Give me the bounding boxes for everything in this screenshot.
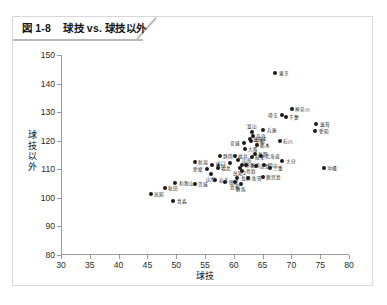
x-tick-mark xyxy=(176,255,177,259)
scatter-point[interactable] xyxy=(322,166,326,170)
scatter-point-label: 千葉 xyxy=(289,115,299,120)
scatter-point[interactable] xyxy=(243,147,247,151)
scatter-point[interactable] xyxy=(268,166,272,170)
scatter-point-label: 秋田 xyxy=(168,186,178,191)
x-tick-mark xyxy=(320,255,321,259)
scatter-point-label: 沖縄 xyxy=(327,165,337,170)
x-axis-label: 球技 xyxy=(61,269,349,282)
y-tick-label: 90 xyxy=(27,221,55,231)
y-tick-label: 120 xyxy=(27,136,55,146)
y-tick-label: 80 xyxy=(27,250,55,260)
scatter-point[interactable] xyxy=(205,167,209,171)
x-tick-mark xyxy=(205,255,206,259)
scatter-point-label: 愛媛 xyxy=(193,167,203,172)
scatter-point[interactable] xyxy=(193,160,197,164)
scatter-point-label: 福島 xyxy=(221,166,231,171)
scatter-point[interactable] xyxy=(284,115,288,119)
x-tick-mark xyxy=(147,255,148,259)
y-tick-mark xyxy=(57,55,61,56)
x-tick-mark xyxy=(234,255,235,259)
y-tick-label: 140 xyxy=(27,79,55,89)
scatter-point-label: 神奈川 xyxy=(295,106,310,111)
y-tick-label: 100 xyxy=(27,193,55,203)
y-tick-mark xyxy=(57,84,61,85)
y-tick-label: 130 xyxy=(27,107,55,117)
scatter-point-label: 新潟 xyxy=(198,160,208,165)
scatter-point-label: 北海道 xyxy=(265,154,280,159)
figure-number: 図 1-8 xyxy=(22,22,51,34)
y-tick-mark xyxy=(57,112,61,113)
scatter-point-label: 群馬 xyxy=(236,187,246,192)
scatter-point-label: 鹿児島 xyxy=(266,175,281,180)
scatter-point[interactable] xyxy=(250,130,254,134)
scatter-point-label: 大阪 xyxy=(248,146,258,151)
scatter-point[interactable] xyxy=(149,192,153,196)
scatter-point-label: 石川 xyxy=(283,139,293,144)
scatter-point-label: 佐賀 xyxy=(252,176,262,181)
scatter-point-label: 富山 xyxy=(247,124,257,129)
scatter-point-label: 和歌山 xyxy=(179,181,194,186)
scatter-point-label: 東京 xyxy=(279,70,289,75)
y-tick-mark xyxy=(57,226,61,227)
y-tick-mark xyxy=(57,198,61,199)
scatter-point[interactable] xyxy=(223,180,227,184)
scatter-point[interactable] xyxy=(163,186,167,190)
x-tick-mark xyxy=(90,255,91,259)
scatter-point-label: 鳥取 xyxy=(246,169,256,174)
y-tick-label: 110 xyxy=(27,164,55,174)
scatter-point-label: 茨城 xyxy=(198,182,208,187)
scatter-point-label: 岐阜 xyxy=(255,155,265,160)
scatter-point[interactable] xyxy=(273,71,277,75)
scatter-point[interactable] xyxy=(193,182,197,186)
plot-area: 8090100110120130140150 30354045505560657… xyxy=(61,55,349,255)
plot-axes-frame xyxy=(61,55,349,255)
y-tick-mark xyxy=(57,141,61,142)
scatter-point-label: 兵庫 xyxy=(267,128,277,133)
scatter-point[interactable] xyxy=(314,122,318,126)
scatter-point[interactable] xyxy=(233,154,237,158)
x-tick-mark xyxy=(61,255,62,259)
x-tick-mark xyxy=(349,255,350,259)
scatter-point[interactable] xyxy=(242,141,246,145)
x-tick-mark xyxy=(119,255,120,259)
y-tick-label: 150 xyxy=(27,50,55,60)
scatter-point-label: 高知 xyxy=(154,192,164,197)
scatter-point-label: 愛知 xyxy=(319,129,329,134)
scatter-point-label: 埼玉 xyxy=(268,112,278,117)
x-tick-mark xyxy=(291,255,292,259)
scatter-point-label: 青森 xyxy=(177,199,187,204)
scatter-point-label: 栃木 xyxy=(260,142,270,147)
figure-container: 図 1-8 球技 vs. 球技以外 球技以外 80901001101201301… xyxy=(12,16,373,286)
scatter-point-label: 滋賀 xyxy=(320,121,330,126)
scatter-point-label: 宮城 xyxy=(230,140,240,145)
scatter-point[interactable] xyxy=(239,182,243,186)
figure-title: 図 1-8 球技 vs. 球技以外 xyxy=(22,20,146,35)
scatter-point[interactable] xyxy=(290,107,294,111)
x-tick-mark xyxy=(263,255,264,259)
scatter-point[interactable] xyxy=(280,113,284,117)
y-tick-mark xyxy=(57,169,61,170)
figure-title-text: 球技 vs. 球技以外 xyxy=(63,22,146,34)
scatter-point[interactable] xyxy=(249,139,253,143)
scatter-point-label: 静岡 xyxy=(223,154,233,159)
scatter-point-label: 三重 xyxy=(273,165,283,170)
scatter-point-label: 大分 xyxy=(286,159,296,164)
